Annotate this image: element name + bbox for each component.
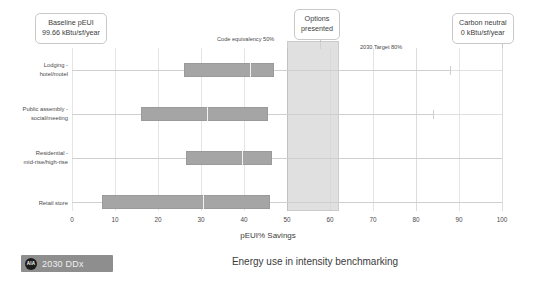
figure-caption: Energy use in intensity benchmarking <box>150 256 480 267</box>
callout-baseline-peui: Baseline pEUI 99.66 kBtu/sf/year <box>35 13 107 44</box>
box <box>184 63 274 77</box>
gridline-10 <box>115 48 116 211</box>
plot-area <box>72 48 502 211</box>
gridline-70 <box>373 48 374 211</box>
reference-band-options-presented <box>287 41 339 211</box>
xtick-20: 20 <box>143 216 173 223</box>
ylabel-public-assembly-line1: Public assembly - <box>23 106 68 112</box>
xtick-50: 50 <box>272 216 302 223</box>
ylabel-residential: Residential - mid-rise/high-rise <box>6 149 68 166</box>
xtick-60: 60 <box>315 216 345 223</box>
callout-baseline-line2: 99.66 kBtu/sf/year <box>42 28 100 38</box>
ylabel-lodging-line2: hotel/motel <box>40 71 68 77</box>
callout-carbon-neutral: Carbon neutral 0 kBtu/sf/year <box>452 13 514 44</box>
xtick-10: 10 <box>100 216 130 223</box>
ylabel-public-assembly-line2: social/meeting <box>31 115 68 121</box>
box <box>186 151 272 165</box>
gridline-90 <box>459 48 460 211</box>
aia-logo-icon: AIA <box>25 258 37 270</box>
box <box>141 107 268 121</box>
median-line <box>242 151 243 165</box>
callout-carbon-line1: Carbon neutral <box>459 18 507 27</box>
whisker-cap-high <box>450 66 451 75</box>
median-line <box>203 195 204 209</box>
ylabel-public-assembly: Public assembly - social/meeting <box>6 105 68 122</box>
gridline-100 <box>502 48 503 211</box>
gridline-0 <box>72 48 73 211</box>
x-axis-ticks: 0 10 20 30 40 50 60 70 80 90 100 <box>72 216 502 228</box>
callout-baseline-line1: Baseline pEUI <box>48 18 94 27</box>
ylabel-residential-line1: Residential - <box>36 150 68 156</box>
xtick-100: 100 <box>487 216 517 223</box>
callout-options-line1: Options <box>305 14 330 23</box>
ylabel-lodging-line1: Lodging - <box>44 62 68 68</box>
callout-carbon-line2: 0 kBtu/sf/year <box>459 28 507 38</box>
ylabel-retail-store-line1: Retail store <box>39 200 68 206</box>
gridline-80 <box>416 48 417 211</box>
box <box>102 195 270 209</box>
median-line <box>207 107 208 121</box>
whisker-line <box>72 158 502 159</box>
whisker-cap-high <box>433 110 434 119</box>
badge-label: 2030 DDx <box>42 259 84 269</box>
x-axis-title: pEUI% Savings <box>0 231 536 240</box>
ylabel-residential-line2: mid-rise/high-rise <box>24 159 68 165</box>
gridline-20 <box>158 48 159 211</box>
aia-2030-ddx-badge: AIA 2030 DDx <box>21 255 113 272</box>
annotation-code-equivalency: Code equivalency 50% <box>217 36 274 42</box>
xtick-90: 90 <box>444 216 474 223</box>
callout-options-line2: presented <box>301 24 333 34</box>
xtick-40: 40 <box>229 216 259 223</box>
ylabel-retail-store: Retail store <box>6 199 68 208</box>
xtick-70: 70 <box>358 216 388 223</box>
ylabel-lodging: Lodging - hotel/motel <box>6 61 68 78</box>
callout-options-presented: Options presented <box>294 9 340 40</box>
xtick-80: 80 <box>401 216 431 223</box>
xtick-0: 0 <box>57 216 87 223</box>
median-line <box>250 63 251 77</box>
xtick-30: 30 <box>186 216 216 223</box>
chart-figure: Baseline pEUI 99.66 kBtu/sf/year Options… <box>0 0 536 289</box>
